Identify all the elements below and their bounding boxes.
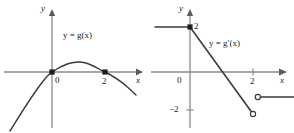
right-open-point-two-minus-one [255,94,260,99]
left-y-axis [49,9,55,128]
left-point-at-zero [49,69,54,74]
left-x-axis [4,69,143,76]
segment-decreasing [190,27,253,114]
figure-container: y x 0 2 y = g(x) [0,0,294,133]
right-graph-svg [147,0,294,133]
right-x-axis [151,69,287,76]
left-graph-svg [0,0,147,133]
panel-right-graph-of-g-prime: y x 2 0 2 −2 y = g′(x) [147,0,294,133]
panel-left-graph-of-g: y x 0 2 y = g(x) [0,0,147,133]
right-filled-point-zero-two [187,24,192,29]
right-open-point-two-minus-three [250,111,255,116]
left-point-at-two [102,69,107,74]
